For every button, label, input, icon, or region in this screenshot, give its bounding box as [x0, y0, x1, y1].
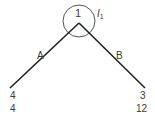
right-leaf-bottom-value: 12	[136, 104, 147, 114]
root-annotation-subscript: 1	[100, 13, 104, 20]
root-annotation: I1	[97, 9, 104, 22]
root-node-label: 1	[75, 8, 81, 18]
edge-b-line	[79, 23, 145, 88]
edge-a-line	[10, 23, 79, 88]
left-leaf-bottom-value: 4	[10, 104, 16, 114]
edge-a-label: A	[37, 51, 44, 61]
left-leaf-top-value: 4	[10, 91, 16, 101]
edge-b-label: B	[116, 51, 123, 61]
right-leaf-top-value: 3	[140, 91, 146, 101]
